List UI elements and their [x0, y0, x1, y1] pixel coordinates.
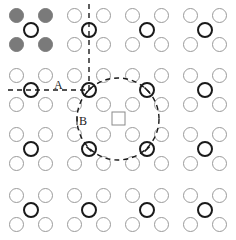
unit-cell [184, 189, 227, 232]
label-b: B [79, 114, 87, 128]
atom-circle [184, 98, 198, 112]
unit-cell [184, 128, 227, 171]
center-atom-circle [140, 203, 154, 217]
atom-circle [68, 218, 82, 232]
atom-circle [155, 157, 169, 171]
atom-circle [68, 157, 82, 171]
atom-circle [126, 38, 140, 52]
center-atom-circle [140, 23, 154, 37]
atom-circle [97, 218, 111, 232]
atom-circle [213, 157, 227, 171]
atom-circle [155, 69, 169, 83]
atom-circle [39, 218, 53, 232]
path-labels: A B [54, 78, 87, 128]
center-atom-circle [198, 203, 212, 217]
atom-circle [184, 38, 198, 52]
unit-cell [184, 69, 227, 112]
unit-cell [126, 189, 169, 232]
atom-circle [68, 69, 82, 83]
atom-circle [39, 98, 53, 112]
atom-circle [126, 9, 140, 23]
center-atom-circle [24, 23, 38, 37]
atom-circle [39, 69, 53, 83]
unit-cells [10, 9, 227, 232]
atom-circle [97, 69, 111, 83]
atom-circle [184, 157, 198, 171]
atom-circle [39, 189, 53, 203]
atom-circle [184, 69, 198, 83]
atom-circle [126, 128, 140, 142]
unit-cell [184, 9, 227, 52]
atom-circle [10, 69, 24, 83]
atom-circle [97, 9, 111, 23]
atom-circle [213, 9, 227, 23]
atom-circle [126, 189, 140, 203]
atom-circle [213, 38, 227, 52]
atom-circle [39, 157, 53, 171]
unit-cell [10, 9, 53, 52]
atom-circle [155, 9, 169, 23]
center-atom-circle [24, 142, 38, 156]
center-atom-circle [24, 203, 38, 217]
unit-cell [126, 9, 169, 52]
atom-circle [39, 128, 53, 142]
center-atom-circle [198, 83, 212, 97]
atom-circle [68, 189, 82, 203]
filled-atom-circle [10, 9, 24, 23]
lattice-diagram: A B [0, 0, 236, 240]
label-a: A [54, 78, 63, 92]
atom-circle [184, 128, 198, 142]
center-atom-circle [82, 203, 96, 217]
atom-circle [10, 98, 24, 112]
atom-circle [213, 69, 227, 83]
center-atom-circle [198, 23, 212, 37]
center-square [112, 112, 125, 125]
atom-circle [213, 218, 227, 232]
unit-cell [10, 189, 53, 232]
atom-circle [97, 128, 111, 142]
center-atom-circle [198, 142, 212, 156]
atom-circle [126, 218, 140, 232]
atom-circle [97, 98, 111, 112]
atom-circle [184, 189, 198, 203]
atom-circle [213, 98, 227, 112]
atom-circle [184, 9, 198, 23]
atom-circle [213, 128, 227, 142]
atom-circle [68, 9, 82, 23]
atom-circle [68, 98, 82, 112]
atom-circle [155, 128, 169, 142]
filled-atom-circle [39, 38, 53, 52]
filled-atom-circle [10, 38, 24, 52]
atom-circle [10, 157, 24, 171]
unit-cell [10, 128, 53, 171]
atom-circle [68, 38, 82, 52]
atom-circle [155, 38, 169, 52]
atom-circle [10, 218, 24, 232]
unit-cell [68, 189, 111, 232]
atom-circle [97, 189, 111, 203]
filled-atom-circle [39, 9, 53, 23]
atom-circle [213, 189, 227, 203]
atom-circle [155, 98, 169, 112]
atom-circle [155, 189, 169, 203]
atom-circle [155, 218, 169, 232]
atom-circle [10, 128, 24, 142]
atom-circle [184, 218, 198, 232]
atom-circle [126, 98, 140, 112]
atom-circle [10, 189, 24, 203]
atom-circle [97, 38, 111, 52]
